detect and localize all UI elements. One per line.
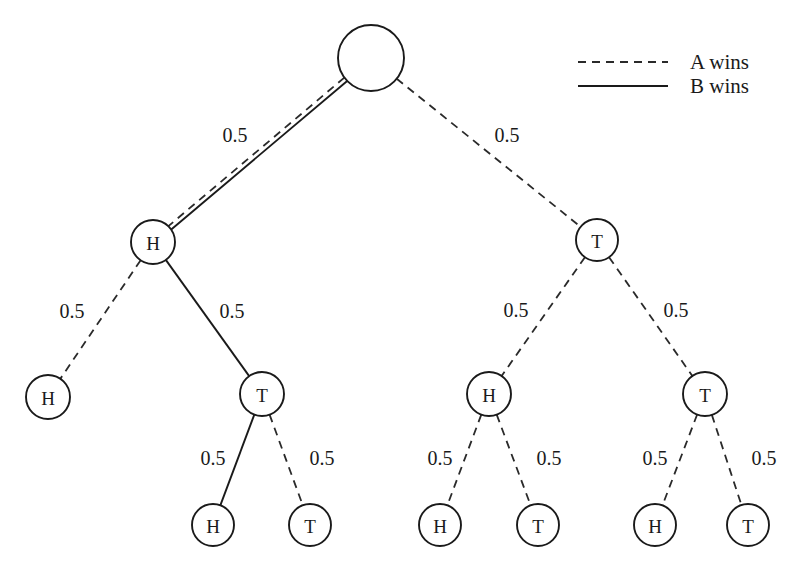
node-label: H [648, 516, 662, 537]
edge-e-th-tht [497, 415, 531, 506]
edges-layer [60, 78, 741, 506]
tree-node-n-htt[interactable]: T [289, 504, 331, 546]
node-label: H [433, 516, 447, 537]
edge-probability-label: 0.5 [504, 299, 529, 321]
edge-e-tt-tth [662, 415, 697, 506]
edge-e-tt-ttt [712, 415, 742, 505]
node-label: H [146, 233, 160, 254]
tree-node-n-ht[interactable]: T [240, 372, 284, 416]
edge-probability-label: 0.5 [60, 300, 85, 322]
edge-e-ht-htt [270, 415, 303, 506]
node-label: T [304, 516, 316, 537]
node-label: H [206, 516, 220, 537]
tree-node-n-hth[interactable]: H [192, 504, 234, 546]
legend-entry-b-wins: B wins [578, 74, 749, 98]
edge-probability-label: 0.5 [428, 447, 453, 469]
figure-canvas: 0.50.50.50.50.50.50.50.50.50.50.50.5 HTH… [0, 0, 798, 570]
edge-e-root-h-dashed [168, 78, 344, 227]
edge-labels-layer: 0.50.50.50.50.50.50.50.50.50.50.50.5 [60, 124, 777, 469]
tree-node-n-t[interactable]: T [576, 219, 618, 261]
probability-tree-diagram: 0.50.50.50.50.50.50.50.50.50.50.50.5 HTH… [0, 0, 798, 570]
tree-node-n-tht[interactable]: T [517, 504, 559, 546]
edge-probability-label: 0.5 [752, 447, 777, 469]
tree-node-n-ttt[interactable]: T [727, 504, 769, 546]
node-label: T [532, 516, 544, 537]
edge-probability-label: 0.5 [201, 447, 226, 469]
node-label: T [742, 516, 754, 537]
node-label: T [699, 385, 711, 406]
node-circle [338, 25, 404, 91]
legend-label: A wins [690, 50, 749, 74]
edge-probability-label: 0.5 [495, 124, 520, 146]
tree-node-n-hh[interactable]: H [26, 375, 70, 419]
tree-node-n-tt[interactable]: T [683, 372, 727, 416]
edge-probability-label: 0.5 [223, 124, 248, 146]
edge-probability-label: 0.5 [643, 447, 668, 469]
edge-e-root-h-solid [171, 81, 347, 230]
tree-node-n-th[interactable]: H [467, 372, 511, 416]
tree-node-root[interactable] [338, 25, 404, 91]
edge-probability-label: 0.5 [310, 447, 335, 469]
node-label: H [41, 388, 55, 409]
node-label: H [482, 385, 496, 406]
tree-node-n-tth[interactable]: H [634, 504, 676, 546]
legend-entry-a-wins: A wins [578, 50, 749, 74]
tree-node-n-h[interactable]: H [131, 220, 175, 264]
node-label: T [591, 231, 603, 252]
edge-e-root-t [397, 79, 581, 227]
legend-label: B wins [690, 74, 749, 98]
edge-probability-label: 0.5 [537, 447, 562, 469]
legend: A winsB wins [578, 50, 749, 98]
node-label: T [256, 385, 268, 406]
tree-node-n-thh[interactable]: H [419, 504, 461, 546]
edge-probability-label: 0.5 [664, 299, 689, 321]
edge-probability-label: 0.5 [220, 300, 245, 322]
